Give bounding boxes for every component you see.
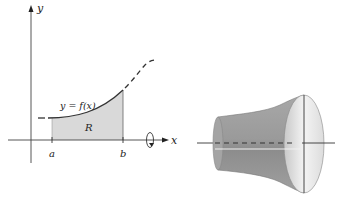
tick-label-a: a — [49, 148, 55, 159]
region-label: R — [84, 122, 93, 133]
curve-label: y = f(x) — [59, 100, 96, 111]
y-axis-label: y — [36, 2, 44, 15]
diagram-canvas: y x y = f(x) R a b — [0, 0, 339, 198]
y-axis-arrow-icon — [29, 5, 34, 12]
x-axis-label: x — [171, 134, 178, 147]
curve-dash-right — [125, 60, 156, 88]
tick-label-b: b — [120, 148, 126, 159]
left-graph: y x y = f(x) R a b — [8, 2, 178, 163]
x-axis-arrow-icon — [162, 138, 169, 143]
solid-of-revolution — [197, 95, 335, 193]
